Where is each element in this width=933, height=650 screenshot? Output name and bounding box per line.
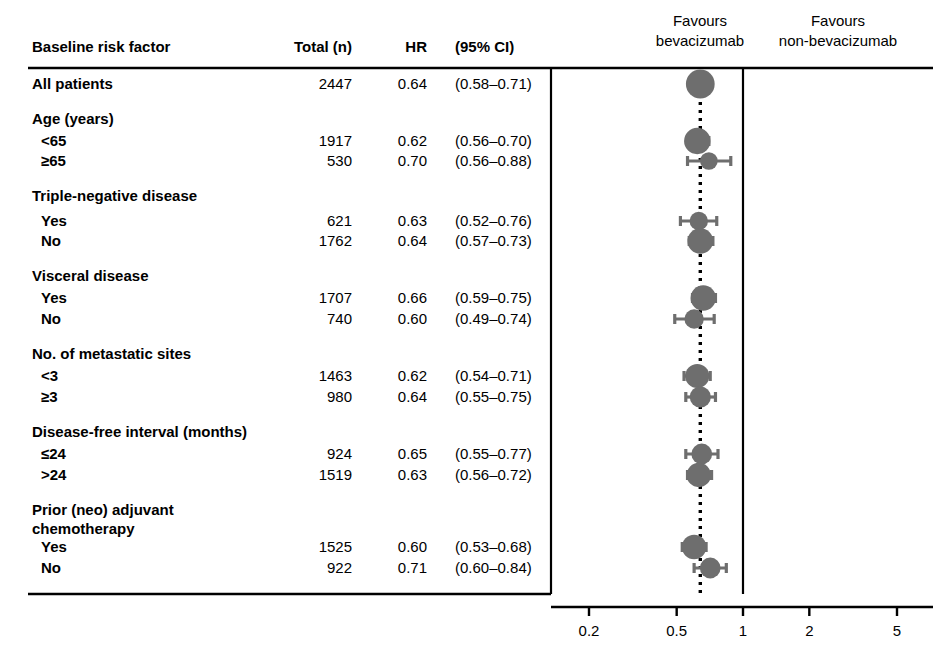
hazard-ratio-marker [682,535,706,559]
row-hr: 0.66 [398,289,427,306]
row-label: Yes [41,289,67,306]
row-ci: (0.57–0.73) [455,232,532,249]
row-total: 924 [327,445,352,462]
row-group-label: Disease-free interval (months) [32,423,247,440]
hazard-ratio-marker [700,558,721,579]
hazard-ratio-marker [690,386,711,407]
hazard-ratio-marker [687,228,713,254]
x-axis-tick-label: 0.5 [666,622,687,639]
row-hr: 0.65 [398,445,427,462]
row-group-label: No. of metastatic sites [32,345,191,362]
legend-left-line2: bevacizumab [656,32,744,49]
row-label: ≥65 [41,152,66,169]
row-total: 1463 [319,367,352,384]
row-label: <3 [41,367,58,384]
row-label: No [41,559,61,576]
row-ci: (0.49–0.74) [455,310,532,327]
hazard-ratio-marker [685,364,709,388]
row-ci: (0.53–0.68) [455,538,532,555]
hazard-ratio-marker [700,152,718,170]
row-hr: 0.71 [398,559,427,576]
hazard-ratio-marker [684,309,703,328]
row-group-label: Age (years) [32,110,114,127]
row-hr: 0.62 [398,367,427,384]
row-label: ≤24 [41,445,67,462]
row-label: All patients [32,75,113,92]
forest-plot: FavoursbevacizumabFavoursnon-bevacizumab… [0,0,933,650]
legend-left-line1: Favours [673,12,727,29]
row-total: 2447 [319,75,352,92]
row-total: 1917 [319,132,352,149]
hazard-ratio-marker [687,463,711,487]
row-ci: (0.56–0.88) [455,152,532,169]
row-hr: 0.64 [398,75,427,92]
row-total: 1519 [319,466,352,483]
row-ci: (0.56–0.70) [455,132,532,149]
row-total: 1762 [319,232,352,249]
row-ci: (0.52–0.76) [455,212,532,229]
row-ci: (0.55–0.77) [455,445,532,462]
hazard-ratio-marker [686,70,715,99]
row-group-label: Prior (neo) adjuvant [32,501,174,518]
row-group-label: Triple-negative disease [32,187,197,204]
row-group-label: Visceral disease [32,267,148,284]
row-hr: 0.60 [398,310,427,327]
x-axis-tick-label: 0.2 [579,622,600,639]
row-total: 621 [327,212,352,229]
row-hr: 0.64 [398,388,427,405]
row-label: ≥3 [41,388,58,405]
hazard-ratio-marker [691,444,712,465]
row-label: Yes [41,538,67,555]
x-axis-tick-label: 1 [739,622,747,639]
row-total: 980 [327,388,352,405]
row-ci: (0.55–0.75) [455,388,532,405]
row-total: 740 [327,310,352,327]
row-group-label: chemotherapy [32,520,135,537]
x-axis-tick-label: 5 [893,622,901,639]
column-header-total: Total (n) [294,38,352,55]
row-total: 530 [327,152,352,169]
row-ci: (0.58–0.71) [455,75,532,92]
row-total: 1707 [319,289,352,306]
row-hr: 0.63 [398,466,427,483]
row-label: Yes [41,212,67,229]
row-label: <65 [41,132,66,149]
row-label: >24 [41,466,67,483]
row-hr: 0.70 [398,152,427,169]
legend-right-line2: non-bevacizumab [779,32,897,49]
hazard-ratio-marker [691,285,716,310]
hazard-ratio-marker [684,128,710,154]
row-hr: 0.64 [398,232,427,249]
row-ci: (0.54–0.71) [455,367,532,384]
row-label: No [41,232,61,249]
row-label: No [41,310,61,327]
row-total: 1525 [319,538,352,555]
row-hr: 0.63 [398,212,427,229]
row-ci: (0.60–0.84) [455,559,532,576]
column-header-factor: Baseline risk factor [32,38,171,55]
legend-right-line1: Favours [811,12,865,29]
row-hr: 0.62 [398,132,427,149]
column-header-ci: (95% CI) [455,38,514,55]
x-axis-tick-label: 2 [805,622,813,639]
row-ci: (0.56–0.72) [455,466,532,483]
row-hr: 0.60 [398,538,427,555]
hazard-ratio-marker [690,212,708,230]
row-ci: (0.59–0.75) [455,289,532,306]
row-total: 922 [327,559,352,576]
column-header-hr: HR [405,38,427,55]
